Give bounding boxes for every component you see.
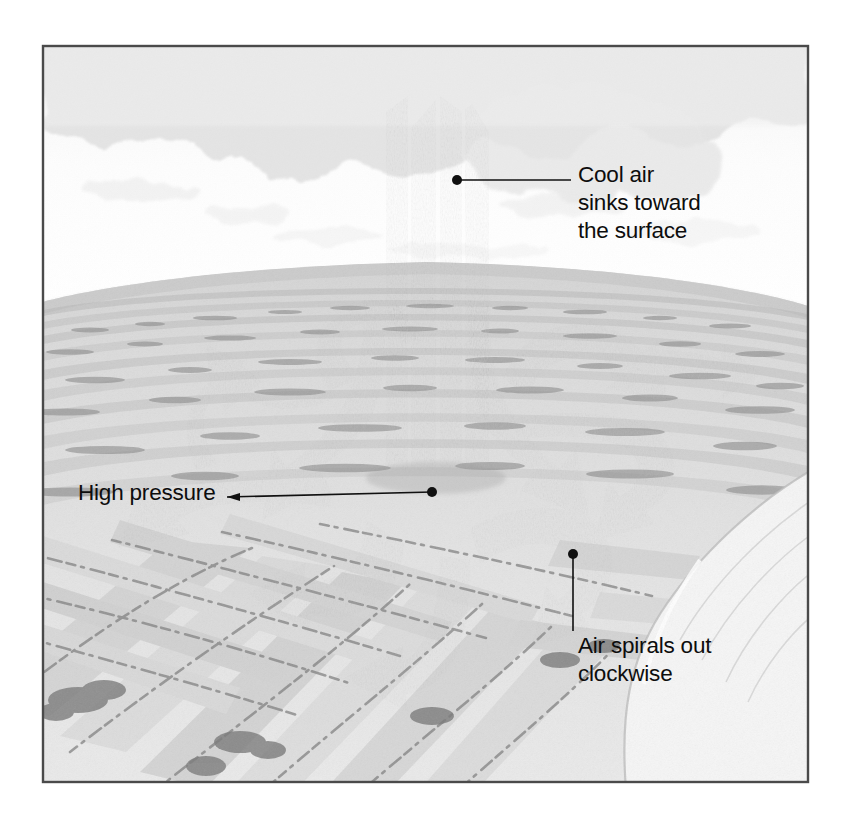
high-pressure-label: High pressure [78,480,215,505]
cool-air-line-1: Cool air [578,162,655,187]
cool-air-line-3: the surface [578,218,687,243]
high-pressure-line-1: High pressure [78,480,215,505]
paper-grain-overlay [43,46,808,782]
cool-air-line-2: sinks toward [578,190,701,215]
illustration-canvas [0,40,812,816]
air-spirals-line-2: clockwise [578,661,672,686]
high-pressure-illustration: Cool air sinks toward the surface High p… [0,0,853,825]
high-pressure-leader-dot [427,487,437,497]
air-spirals-line-1: Air spirals out [578,633,712,658]
cool-air-leader-dot [452,175,462,185]
air-spirals-leader-dot [568,549,578,559]
